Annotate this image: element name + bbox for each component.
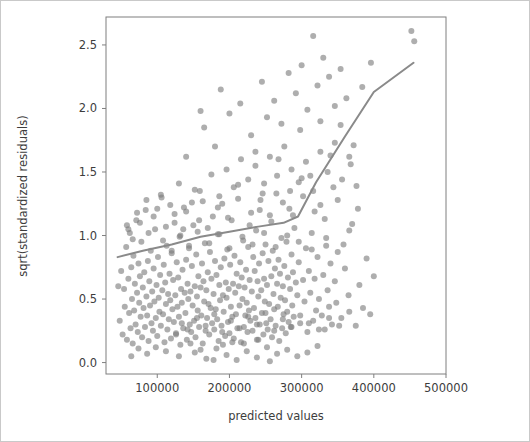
scatter-point [205, 225, 211, 231]
scatter-point [221, 255, 227, 261]
scatter-point [320, 272, 326, 278]
scatter-point [133, 321, 139, 327]
scatter-point [235, 196, 241, 202]
scatter-point [187, 341, 193, 347]
scatter-point [209, 320, 215, 326]
scatter-point [243, 267, 249, 273]
scatter-point [161, 339, 167, 345]
scatter-point [250, 241, 256, 247]
scatter-point [255, 337, 261, 343]
scatter-point [275, 304, 281, 310]
scatter-point [332, 140, 338, 146]
scatter-point [211, 357, 217, 363]
scatter-point [213, 272, 219, 278]
scatter-point [304, 107, 310, 113]
scatter-point [238, 156, 244, 162]
scatter-point [263, 241, 269, 247]
scatter-point [260, 250, 266, 256]
scatter-point [326, 315, 332, 321]
scatter-point [159, 287, 165, 293]
scatter-point [273, 244, 279, 250]
scatter-point [336, 323, 342, 329]
scatter-point [315, 254, 321, 260]
scatter-point [322, 216, 328, 222]
scatter-point [256, 260, 262, 266]
scatter-point [411, 38, 417, 44]
scatter-point [172, 220, 178, 226]
scatter-point [130, 236, 136, 242]
scatter-point [269, 334, 275, 340]
scatter-point [185, 296, 191, 302]
scatter-point [164, 327, 170, 333]
scatter-point [229, 339, 235, 345]
scatter-point [303, 159, 309, 165]
scatter-point [299, 62, 305, 68]
scatter-point [236, 283, 242, 289]
scatter-point [152, 226, 158, 232]
scatter-point [317, 118, 323, 124]
scatter-point [264, 282, 270, 288]
scatter-point [325, 169, 331, 175]
scatter-point [312, 208, 318, 214]
scatter-point [300, 193, 306, 199]
scatter-point [154, 206, 160, 212]
scatter-point [144, 313, 150, 319]
scatter-point [174, 259, 180, 265]
scatter-point [124, 222, 130, 228]
scatter-point [176, 353, 182, 359]
scatter-point [356, 282, 362, 288]
scatter-point [198, 347, 204, 353]
scatter-point [316, 327, 322, 333]
scatter-point [244, 300, 250, 306]
scatter-point [261, 230, 267, 236]
scatter-point [193, 252, 199, 258]
y-tick-label: 2.0 [79, 101, 97, 115]
scatter-point [206, 240, 212, 246]
scatter-point [199, 260, 205, 266]
scatter-point [329, 321, 335, 327]
scatter-point [304, 349, 310, 355]
scatter-point [216, 282, 222, 288]
scatter-point [245, 177, 251, 183]
scatter-point [273, 323, 279, 329]
scatter-point [267, 212, 273, 218]
scatter-point [286, 206, 292, 212]
scatter-point [143, 197, 149, 203]
scatter-point [319, 313, 325, 319]
scatter-point [194, 294, 200, 300]
scatter-point [300, 277, 306, 283]
scatter-point [330, 184, 336, 190]
scatter-point [180, 226, 186, 232]
scatter-point [338, 315, 344, 321]
scatter-point [115, 283, 121, 289]
scatter-point [175, 274, 181, 280]
scatter-point [364, 255, 370, 261]
scatter-point [231, 184, 237, 190]
scatter-point [224, 295, 230, 301]
scatter-point [237, 259, 243, 265]
scatter-point [274, 351, 280, 357]
scatter-point [138, 314, 144, 320]
scatter-point [248, 210, 254, 216]
scatter-point [309, 246, 315, 252]
scatter-point [326, 304, 332, 310]
scatter-point [332, 278, 338, 284]
scatter-point [208, 172, 214, 178]
scatter-point [189, 199, 195, 205]
scatter-point [143, 294, 149, 300]
scatter-point [268, 273, 274, 279]
scatter-point [297, 127, 303, 133]
scatter-point [323, 243, 329, 249]
scatter-point [139, 334, 145, 340]
scatter-point [267, 358, 273, 364]
scatter-point [306, 320, 312, 326]
scatter-point [210, 213, 216, 219]
scatter-point [226, 111, 232, 117]
scatter-point [226, 286, 232, 292]
scatter-point [280, 283, 286, 289]
scatter-point [167, 202, 173, 208]
scatter-point [237, 325, 243, 331]
scatter-point [353, 323, 359, 329]
scatter-point [270, 291, 276, 297]
scatter-point [360, 305, 366, 311]
